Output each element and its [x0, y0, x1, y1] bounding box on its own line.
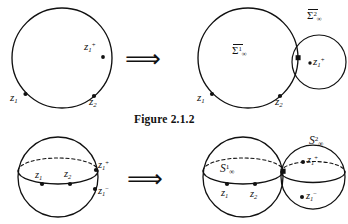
- figure-page: ⟹ z1+ z1 z2 Σ1∞ Σ2∞ z1 z2 z1+ Figure 2.1…: [0, 0, 348, 224]
- bottom-right-left-sphere-label: S1∞: [220, 163, 234, 176]
- bottom-left-label-z1minus: z1−: [98, 186, 109, 197]
- top-left-label-z1: z1: [10, 92, 18, 105]
- bottom-right-label-z2: z2: [250, 189, 257, 200]
- bottom-left-label-z1plus: z1+: [98, 160, 109, 171]
- bottom-left-point-z2: [68, 182, 72, 186]
- top-right-big-circle-label-overbar: [233, 44, 244, 45]
- bottom-left-point-z1minus: [93, 187, 97, 191]
- top-right-point-z1plus: [308, 61, 311, 64]
- bottom-left-label-z1-sub: 1: [39, 174, 42, 181]
- top-left-label-z1-sub: 1: [14, 97, 17, 104]
- bottom-right-label-z1: z1: [221, 188, 228, 199]
- top-right-tangency-node: [296, 55, 301, 60]
- bottom-right-point-z1minus: [300, 195, 304, 199]
- bottom-right-label-z2-sub: 2: [254, 193, 257, 200]
- bottom-right-label-z1plus-sup: +: [314, 154, 318, 161]
- bottom-left-label-z2: z2: [64, 169, 71, 180]
- bottom-left-label-z1minus-sup: −: [105, 185, 109, 192]
- bottom-right-left-sphere-label-sub: ∞: [229, 168, 234, 176]
- bottom-right-label-z1plus: z1+: [307, 155, 318, 166]
- bottom-right-label-z1-sub: 1: [225, 192, 228, 199]
- top-right-big-circle-label-sub: ∞: [242, 50, 247, 57]
- top-right-label-z2-sub: 2: [279, 101, 282, 108]
- bottom-right-left-equator-back-dashed: [203, 158, 283, 171]
- bottom-right-point-z1plus: [301, 160, 305, 164]
- top-right-small-circle-label: Σ2∞: [307, 10, 322, 23]
- bottom-row-implication-arrow: ⟹: [127, 166, 163, 191]
- bottom-left-point-z1: [40, 182, 44, 186]
- bottom-left-equator-back-dashed: [18, 158, 98, 171]
- top-right-label-z1plus: z1+: [313, 56, 325, 69]
- bottom-left-sphere-outline: [18, 137, 98, 217]
- bottom-right-tangency-node: [280, 169, 285, 174]
- top-left-label-z2-sub: 2: [93, 101, 96, 108]
- bottom-right-left-sphere-outline: [203, 137, 283, 217]
- top-left-label-z1plus-sup: +: [92, 41, 96, 48]
- bottom-right-point-z2: [253, 182, 257, 186]
- top-right-point-z1: [210, 92, 214, 96]
- top-right-small-circle-label-sub: ∞: [317, 15, 322, 22]
- bottom-right-label-z1minus-sup: −: [313, 190, 317, 197]
- top-left-point-z1plus: [101, 55, 105, 59]
- bottom-right-point-z1: [225, 182, 229, 186]
- bottom-right-right-sphere-label-sub: ∞: [318, 140, 323, 148]
- bottom-right-right-sphere-label: S2∞: [309, 135, 323, 148]
- top-row-implication-arrow: ⟹: [125, 46, 161, 71]
- top-left-label-z2: z2: [89, 96, 97, 109]
- bottom-left-label-z1plus-sup: +: [105, 159, 109, 166]
- top-left-label-z1plus: z1+: [84, 41, 96, 54]
- top-left-point-z1: [23, 92, 27, 96]
- figure-caption: Figure 2.1.2: [134, 113, 195, 125]
- bottom-right-left-equator-front: [203, 171, 283, 184]
- top-right-big-circle-label: Σ1∞: [232, 45, 247, 58]
- figure-canvas: [0, 0, 348, 224]
- top-right-label-z1-sub: 1: [201, 97, 204, 104]
- bottom-left-label-z2-sub: 2: [68, 173, 71, 180]
- top-right-label-z1: z1: [197, 92, 205, 105]
- bottom-left-equator-front: [18, 171, 98, 184]
- top-right-label-z2: z2: [275, 96, 283, 109]
- top-right-small-circle-label-overbar: [308, 9, 319, 10]
- bottom-left-label-z1: z1: [35, 170, 42, 181]
- bottom-right-right-equator-front: [281, 172, 345, 183]
- bottom-right-label-z1minus: z1−: [306, 191, 317, 202]
- top-right-label-z1plus-sup: +: [321, 56, 325, 63]
